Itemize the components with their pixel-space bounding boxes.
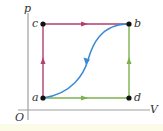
pv-diagram: p V O c b a d bbox=[0, 0, 163, 131]
arrow-right-icon bbox=[81, 22, 88, 27]
point-a-label: a bbox=[32, 91, 39, 104]
point-d bbox=[126, 95, 131, 100]
arrow-right-icon bbox=[81, 96, 88, 101]
arrow-up-icon bbox=[127, 57, 132, 64]
origin-label: O bbox=[15, 111, 24, 124]
bottom-strip bbox=[0, 124, 163, 131]
point-a bbox=[40, 95, 45, 100]
point-c bbox=[40, 21, 45, 26]
y-axis-label: p bbox=[24, 2, 31, 15]
x-axis-label: V bbox=[150, 103, 159, 116]
arrow-up-icon bbox=[41, 57, 46, 64]
point-c-label: c bbox=[32, 17, 38, 30]
point-b bbox=[126, 21, 131, 26]
point-b-label: b bbox=[134, 17, 141, 30]
point-d-label: d bbox=[134, 91, 141, 104]
